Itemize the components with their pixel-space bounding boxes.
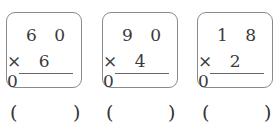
answer-blank-2[interactable] <box>118 100 168 122</box>
answer-blank-1[interactable] <box>22 100 72 122</box>
multiplicand: 6 0 <box>26 25 71 45</box>
multiplier: × 4 0 <box>103 51 167 91</box>
problem-card-1: 6 0 × 6 0 <box>6 12 82 88</box>
multiplicand: 1 8 <box>217 25 262 45</box>
answer-2-open-paren: ( <box>106 101 113 123</box>
problem-card-2: 9 0 × 4 0 <box>102 12 178 88</box>
answer-1-close-paren: ) <box>73 101 80 123</box>
answer-2-close-paren: ) <box>168 101 175 123</box>
multiplicand: 9 0 <box>122 25 167 45</box>
answer-1-open-paren: ( <box>10 101 17 123</box>
answer-3-close-paren: ) <box>264 101 271 123</box>
result-line <box>19 73 73 74</box>
problem-card-3: 1 8 × 2 0 <box>197 12 273 88</box>
multiplier: × 2 0 <box>198 51 262 91</box>
result-line <box>115 73 169 74</box>
answer-blank-3[interactable] <box>214 100 264 122</box>
answer-3-open-paren: ( <box>202 101 209 123</box>
multiplier: × 6 0 <box>7 51 71 91</box>
result-line <box>210 73 264 74</box>
